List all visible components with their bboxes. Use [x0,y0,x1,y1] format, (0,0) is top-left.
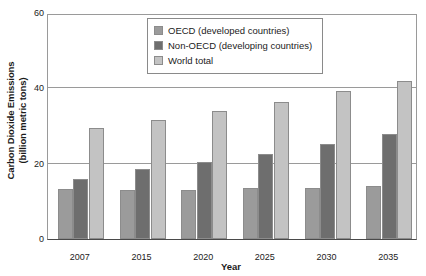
bar [197,162,212,239]
bar [320,144,335,239]
bar [73,179,88,239]
y-tick-label: 60 [18,8,44,18]
bar [135,169,150,239]
bar [382,134,397,239]
legend-swatch-world-total [154,56,163,65]
legend-label-non-oecd: Non-OECD (developing countries) [168,40,312,51]
bar [397,81,412,239]
y-axis-title: Carbon Dioxide Emissions (billion metric… [0,0,34,240]
bar [305,188,320,239]
y-axis-title-line1: Carbon Dioxide Emissions [6,61,17,179]
y-tick-label: 40 [18,83,44,93]
bar [243,188,258,239]
legend-item: World total [154,53,316,68]
bar [212,111,227,239]
legend-swatch-oecd [154,26,163,35]
bar [336,91,351,239]
legend-item: OECD (developed countries) [154,23,316,38]
legend: OECD (developed countries) Non-OECD (dev… [147,18,323,74]
legend-swatch-non-oecd [154,41,163,50]
x-axis-title: Year [44,261,418,272]
bar [120,190,135,239]
y-tick-label: 20 [18,159,44,169]
bar [58,189,73,239]
legend-label-world-total: World total [168,55,213,66]
bar-group [366,15,412,239]
bar [258,154,273,239]
bar [274,102,289,239]
legend-item: Non-OECD (developing countries) [154,38,316,53]
y-tick-label: 0 [18,234,44,244]
bar-group [58,15,104,239]
legend-label-oecd: OECD (developed countries) [168,25,289,36]
bar [181,190,196,239]
bar [151,120,166,239]
chart-figure: Carbon Dioxide Emissions (billion metric… [0,0,426,276]
bar [89,128,104,239]
bar [366,186,381,239]
